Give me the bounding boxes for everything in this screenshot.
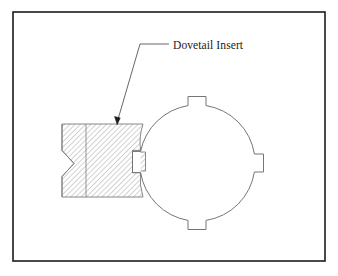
technical-drawing-figure: Dovetail Insert bbox=[0, 0, 338, 276]
leader-line bbox=[118, 44, 170, 121]
tab-left-notch bbox=[133, 151, 141, 172]
annotation-leader bbox=[115, 44, 169, 125]
circular-body-outline bbox=[133, 97, 264, 230]
drawing-canvas: Dovetail Insert bbox=[0, 0, 338, 276]
annotation-label: Dovetail Insert bbox=[173, 39, 244, 51]
leader-arrowhead bbox=[115, 117, 121, 125]
circular-body bbox=[133, 97, 264, 230]
